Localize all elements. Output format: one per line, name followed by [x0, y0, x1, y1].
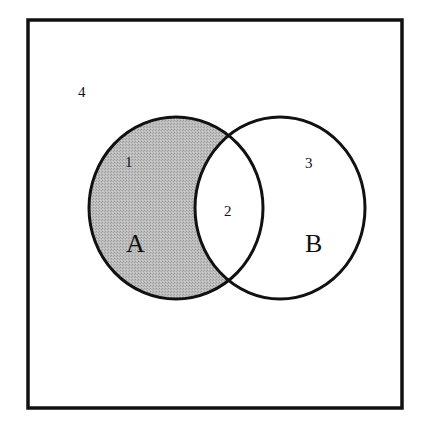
region-2-label: 2	[224, 203, 232, 219]
region-4-label: 4	[78, 84, 86, 100]
venn-diagram: 4 1 2 3 A B	[0, 0, 421, 434]
region-3-label: 3	[305, 155, 313, 171]
set-a-label: A	[126, 229, 145, 258]
region-1-label: 1	[125, 154, 133, 170]
set-b-label: B	[305, 229, 322, 258]
